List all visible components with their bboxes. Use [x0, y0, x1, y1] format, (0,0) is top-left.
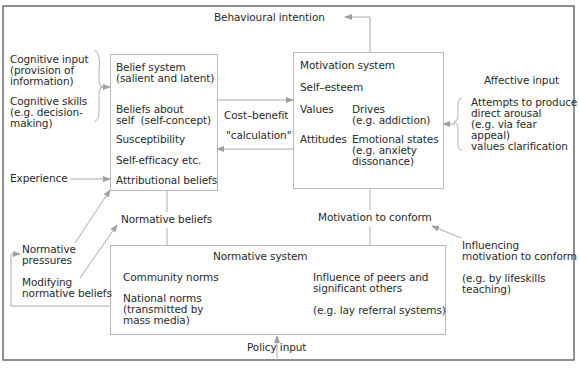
policy-input-label: Policy input: [247, 342, 306, 353]
emotional-states-label: Emotional states (e.g. anxiety dissonanc…: [352, 134, 439, 167]
motivation-to-conform-label: Motivation to conform: [318, 212, 432, 223]
belief-item-self: Beliefs about self (self-concept): [116, 104, 211, 126]
normative-pressures-label: Normative pressures: [22, 244, 76, 266]
arrow-normative-pressures: [75, 190, 110, 243]
cost-benefit-label: Cost–benefit: [224, 110, 288, 121]
cognitive-skills-label: Cognitive skills (e.g. decision- making): [10, 96, 87, 129]
influencing-motivation-label: Influencing motivation to conform: [462, 240, 577, 262]
modifying-normative-beliefs-label: Modifying normative beliefs: [22, 277, 112, 299]
arrow-to-behavioural-intention: [345, 17, 370, 52]
influencing-example-label: (e.g. by lifeskills teaching): [462, 273, 545, 295]
behavioural-intention-label: Behavioural intention: [214, 12, 325, 23]
community-norms-label: Community norms: [123, 272, 219, 283]
belief-item-attributional: Attributional beliefs: [116, 175, 217, 186]
lay-referral-label: (e.g. lay referral systems): [313, 305, 446, 316]
cognitive-input-label: Cognitive input (provision of informatio…: [10, 54, 89, 87]
belief-system-title: Belief system (salient and latent): [116, 62, 214, 84]
normative-beliefs-label: Normative beliefs: [121, 214, 212, 225]
belief-item-self-efficacy: Self-efficacy etc.: [116, 155, 201, 166]
drives-label: Drives (e.g. addiction): [352, 104, 430, 126]
normative-system-title: Normative system: [213, 251, 307, 262]
values-label: Values: [300, 104, 334, 115]
motivation-system-title: Motivation system: [300, 60, 395, 71]
arrow-influencing-motivation: [432, 226, 461, 238]
calculation-label: "calculation": [226, 130, 291, 141]
affective-input-title: Affective input: [484, 75, 559, 86]
national-norms-label: National norms (transmitted by mass medi…: [123, 293, 203, 326]
attitudes-label: Attitudes: [300, 134, 347, 145]
belief-item-susceptibility: Susceptibility: [116, 134, 185, 145]
cognitive-brace: [95, 50, 103, 122]
experience-label: Experience: [10, 173, 68, 184]
affective-brace: [454, 97, 462, 151]
affective-input-body: Attempts to produce direct arousal (e.g.…: [471, 97, 577, 152]
influence-peers-label: Influence of peers and significant other…: [313, 272, 428, 294]
self-esteem-label: Self–esteem: [300, 82, 363, 93]
